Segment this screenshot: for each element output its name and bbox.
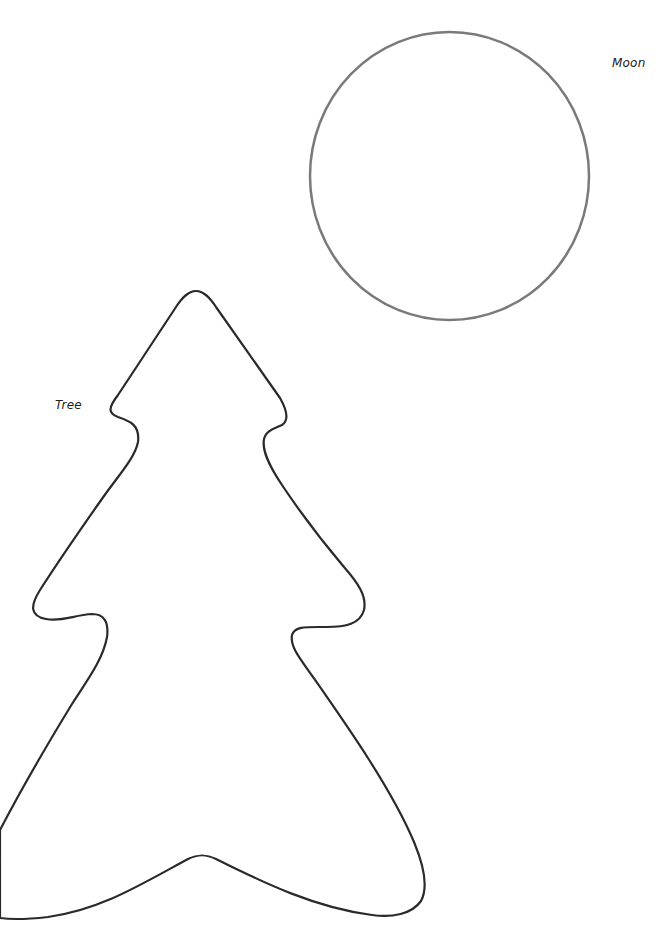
tree-label: Tree — [55, 398, 82, 412]
moon-circle-outline — [310, 32, 589, 320]
moon-label: Moon — [612, 56, 645, 70]
drawing-canvas: Moon Tree — [0, 0, 661, 941]
tree-outline — [0, 291, 425, 919]
drawing-svg — [0, 0, 661, 941]
